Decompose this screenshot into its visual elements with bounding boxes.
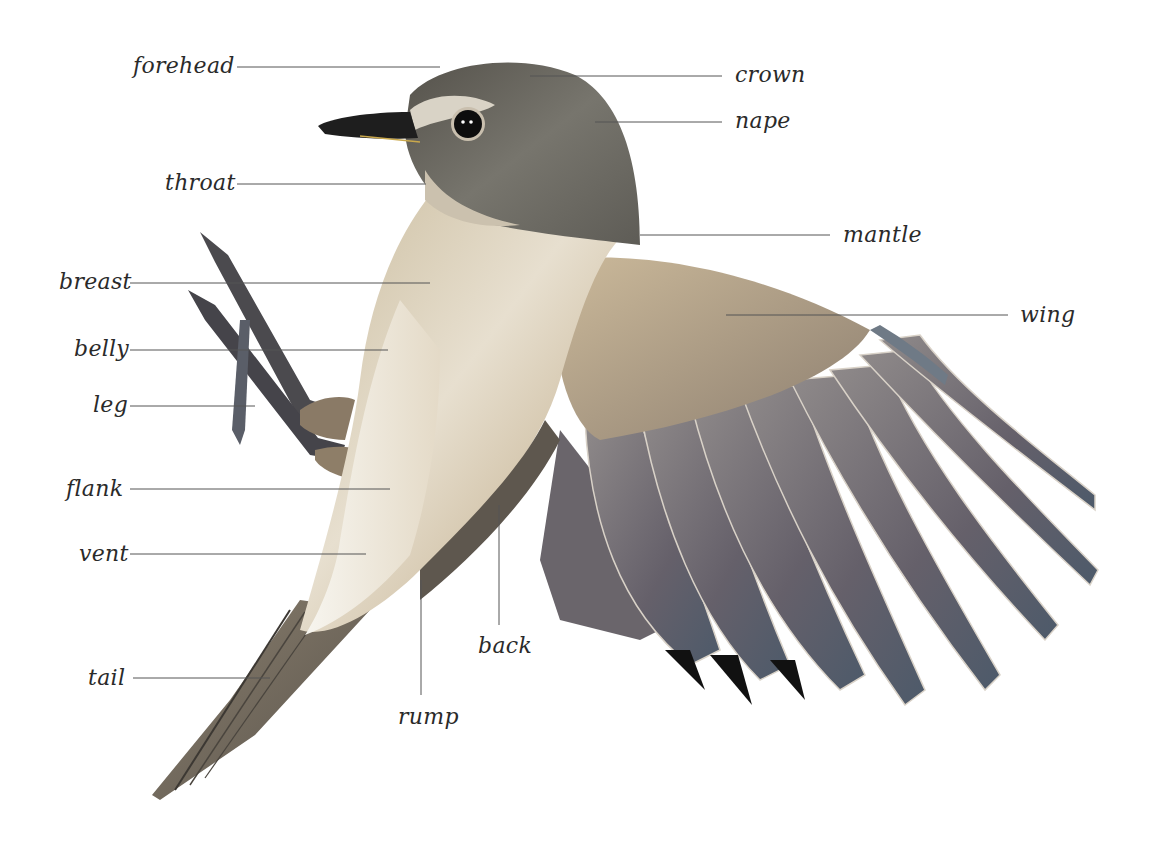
- head-shape: [318, 63, 640, 245]
- label-flank: flank: [66, 478, 123, 500]
- legs-shape: [188, 232, 370, 480]
- label-wing: wing: [1020, 304, 1075, 326]
- bird-illustration: [0, 0, 1156, 848]
- eye: [454, 110, 482, 138]
- label-throat: throat: [165, 172, 236, 194]
- label-crown: crown: [735, 64, 806, 86]
- label-forehead: forehead: [133, 55, 235, 77]
- label-nape: nape: [735, 110, 791, 132]
- wing-shape: [540, 258, 1098, 705]
- label-rump: rump: [398, 706, 459, 728]
- label-vent: vent: [79, 543, 129, 565]
- label-belly: belly: [74, 338, 129, 360]
- label-breast: breast: [59, 271, 132, 293]
- tail-shape: [152, 600, 370, 800]
- label-leg: leg: [93, 394, 128, 416]
- label-back: back: [478, 635, 532, 657]
- bird-anatomy-diagram: forehead crown nape throat mantle breast…: [0, 0, 1156, 848]
- label-mantle: mantle: [843, 224, 922, 246]
- label-tail: tail: [88, 667, 125, 689]
- bill: [318, 112, 418, 139]
